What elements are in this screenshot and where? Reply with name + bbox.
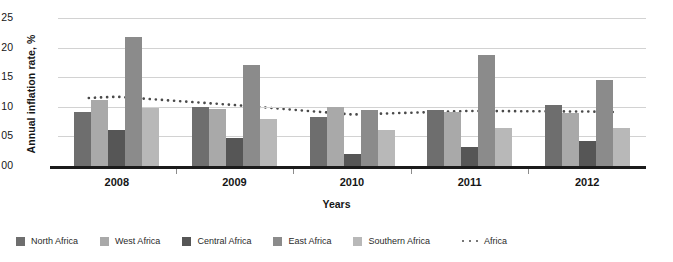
- bar-central-africa-2010: [344, 154, 361, 166]
- bar-west-africa-2012: [562, 113, 579, 166]
- bar-east-africa-2008: [125, 37, 142, 166]
- y-axis-title: Annual inflation rate, %: [25, 19, 37, 169]
- bar-east-africa-2010: [361, 110, 378, 166]
- bar-group-2011: [427, 18, 512, 166]
- bar-central-africa-2009: [226, 138, 243, 166]
- x-axis-label-2010: 2010: [297, 176, 407, 188]
- bar-southern-africa-2011: [495, 128, 512, 166]
- legend-item-east-africa[interactable]: East Africa: [273, 236, 331, 246]
- bar-central-africa-2008: [108, 130, 125, 166]
- y-axis-tick-label: 10: [0, 100, 13, 112]
- bar-group-2010: [310, 18, 395, 166]
- bar-central-africa-2012: [579, 141, 596, 166]
- bar-west-africa-2008: [91, 100, 108, 166]
- x-axis-title: Years: [0, 198, 673, 210]
- bar-southern-africa-2012: [613, 128, 630, 166]
- dotted-line-swatch-africa-icon: [462, 240, 478, 242]
- legend-label: West Africa: [115, 236, 160, 246]
- x-axis-tickmark: [411, 169, 412, 174]
- bar-west-africa-2011: [444, 112, 461, 166]
- x-axis-line: [50, 166, 646, 169]
- y-axis-tick-label: 05: [0, 129, 13, 141]
- y-axis-tick-label: 15: [0, 70, 13, 82]
- legend-item-southern-africa[interactable]: Southern Africa: [353, 236, 430, 246]
- bar-west-africa-2010: [327, 107, 344, 166]
- bar-southern-africa-2008: [142, 108, 159, 166]
- chart-legend: North AfricaWest AfricaCentral AfricaEas…: [16, 234, 529, 248]
- bar-west-africa-2009: [209, 109, 226, 166]
- y-axis-tick-label: 25: [0, 11, 13, 23]
- legend-label: East Africa: [288, 236, 331, 246]
- x-axis-label-2008: 2008: [62, 176, 172, 188]
- inflation-rate-grouped-bar-chart: Annual inflation rate, % Years North Afr…: [0, 0, 673, 262]
- square-swatch-north-africa-icon: [16, 237, 25, 246]
- bar-southern-africa-2009: [260, 119, 277, 166]
- x-axis-tickmark: [293, 169, 294, 174]
- x-axis-label-2012: 2012: [532, 176, 642, 188]
- bar-central-africa-2011: [461, 147, 478, 166]
- bar-east-africa-2012: [596, 80, 613, 166]
- square-swatch-west-africa-icon: [100, 237, 109, 246]
- bar-group-2009: [192, 18, 277, 166]
- x-axis-label-2009: 2009: [179, 176, 289, 188]
- x-axis-label-2011: 2011: [415, 176, 525, 188]
- legend-item-north-africa[interactable]: North Africa: [16, 236, 78, 246]
- square-swatch-southern-africa-icon: [353, 237, 362, 246]
- legend-label: Africa: [484, 236, 507, 246]
- bar-north-africa-2008: [74, 112, 91, 166]
- legend-item-west-africa[interactable]: West Africa: [100, 236, 160, 246]
- legend-item-central-africa[interactable]: Central Africa: [182, 236, 251, 246]
- x-axis-tickmark: [176, 169, 177, 174]
- bar-north-africa-2011: [427, 110, 444, 166]
- legend-label: Central Africa: [197, 236, 251, 246]
- bar-east-africa-2009: [243, 65, 260, 166]
- bar-east-africa-2011: [478, 55, 495, 166]
- bar-southern-africa-2010: [378, 130, 395, 166]
- square-swatch-central-africa-icon: [182, 237, 191, 246]
- y-axis-tick-label: 20: [0, 41, 13, 53]
- legend-item-africa[interactable]: Africa: [462, 236, 507, 246]
- square-swatch-east-africa-icon: [273, 237, 282, 246]
- legend-label: Southern Africa: [368, 236, 430, 246]
- bar-north-africa-2009: [192, 107, 209, 166]
- bar-group-2008: [74, 18, 159, 166]
- x-axis-tickmark: [528, 169, 529, 174]
- bar-north-africa-2010: [310, 117, 327, 166]
- y-axis-tick-label: 00: [0, 159, 13, 171]
- plot-area: [58, 18, 646, 166]
- legend-label: North Africa: [31, 236, 78, 246]
- bar-north-africa-2012: [545, 105, 562, 166]
- bar-group-2012: [545, 18, 630, 166]
